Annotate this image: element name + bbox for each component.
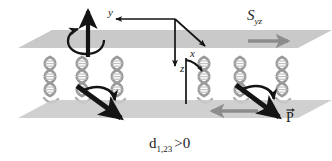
helix-item <box>111 57 122 96</box>
shear-label: Syz <box>247 8 262 26</box>
polarization-label: P <box>286 111 294 125</box>
condition-label: d1,23>0 <box>149 136 190 154</box>
axis-label-z: z <box>180 63 184 74</box>
helix-item <box>198 57 209 96</box>
shear-symbol: S <box>247 7 255 23</box>
vector-arrow-icon <box>286 106 295 113</box>
helix-item <box>44 57 55 96</box>
axis-label-y: y <box>108 7 113 18</box>
shear-subscript: yz <box>255 16 263 26</box>
figure-canvas: y x z Syz P d1,23>0 <box>0 0 332 161</box>
lower-plane <box>18 100 332 118</box>
condition-symbol: d <box>149 135 157 151</box>
helix-group-right <box>198 57 290 103</box>
axis-label-x: x <box>190 48 195 59</box>
helix-item <box>276 57 287 96</box>
condition-relation: >0 <box>174 135 190 151</box>
condition-subscript: 1,23 <box>157 144 173 154</box>
